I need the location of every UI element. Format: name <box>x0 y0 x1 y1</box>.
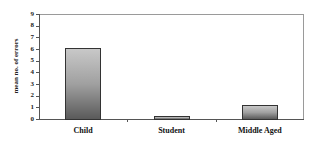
y-tick-label: 9 <box>24 11 34 18</box>
bar-student <box>154 116 190 121</box>
y-tick-mark <box>36 84 39 85</box>
y-axis-title: mean no. of errors <box>12 36 20 96</box>
y-tick-label: 6 <box>24 46 34 53</box>
y-tick-mark <box>36 96 39 97</box>
y-tick-mark <box>36 61 39 62</box>
y-tick-label: 1 <box>24 104 34 111</box>
x-category-label: Student <box>132 126 212 135</box>
y-tick-mark <box>36 14 39 15</box>
x-category-label: Child <box>43 126 123 135</box>
y-tick-mark <box>36 119 39 120</box>
x-tick-mark <box>216 119 217 122</box>
y-tick-mark <box>36 49 39 50</box>
y-tick-label: 0 <box>24 116 34 123</box>
y-tick-label: 5 <box>24 57 34 64</box>
y-tick-mark <box>36 37 39 38</box>
bar-child <box>65 48 101 120</box>
y-tick-label: 8 <box>24 22 34 29</box>
y-tick-mark <box>36 26 39 27</box>
y-axis <box>39 14 40 120</box>
y-tick-mark <box>36 107 39 108</box>
y-tick-label: 7 <box>24 34 34 41</box>
y-tick-label: 4 <box>24 69 34 76</box>
y-tick-label: 2 <box>24 92 34 99</box>
bar-middle-aged <box>242 105 278 120</box>
x-category-label: Middle Aged <box>220 126 300 135</box>
x-tick-mark <box>127 119 128 122</box>
y-tick-mark <box>36 72 39 73</box>
y-tick-label: 3 <box>24 81 34 88</box>
